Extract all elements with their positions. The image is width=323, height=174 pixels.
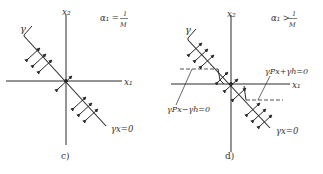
origin-point [230,83,233,86]
condition-label: α₁ > 1 M [271,10,297,29]
svg-text:1: 1 [292,10,296,18]
svg-text:1: 1 [123,10,127,18]
lower-boundary-label: γPx−γh=0 [167,105,210,114]
svg-text:α₁ =: α₁ = [100,13,119,23]
switching-line-label: γx=0 [111,124,134,134]
panel-c [6,15,122,145]
caption-c: c) [61,151,70,161]
panel-d [171,15,290,152]
x2-axis-label: x₂ [62,7,71,17]
gamma-label: γ [20,23,26,34]
svg-text:M: M [119,21,127,29]
svg-text:M: M [288,21,296,29]
switching-line-label: γx=0 [276,126,299,136]
gamma-label: γ [185,24,191,35]
upper-label-leader [258,76,270,100]
origin-point [65,80,68,83]
upper-boundary-label: γPx+γh=0 [265,67,308,76]
condition-label: α₁ = 1 M [100,10,128,29]
lower-label-leader [176,69,192,105]
trajectory-arrows [28,48,98,120]
diagram-canvas: x₂ x₁ γ γx=0 α₁ = 1 M c) [0,0,323,174]
x1-axis-label: x₁ [292,80,301,90]
svg-text:α₁ >: α₁ > [271,13,290,23]
x1-axis-label: x₁ [124,77,133,87]
x2-axis-label: x₂ [227,9,236,19]
caption-d: d) [225,151,234,161]
